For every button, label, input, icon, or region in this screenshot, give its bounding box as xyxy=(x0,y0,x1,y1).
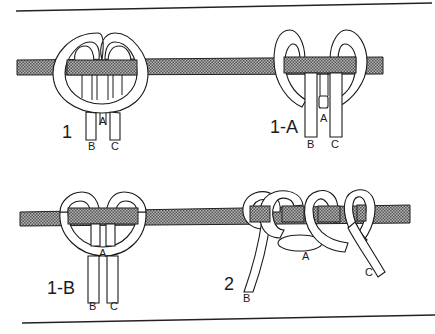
strand-c-label: C xyxy=(110,300,118,312)
panel-1-a: 1-A A B C xyxy=(270,30,367,150)
panel-1-b: 1-B A B C xyxy=(47,192,146,312)
strand-a-label: A xyxy=(99,115,107,127)
top-rule xyxy=(16,3,432,11)
strand-a-label: A xyxy=(302,250,310,262)
panel-2: 2 A B C xyxy=(224,190,385,304)
panel-1-label: 1 xyxy=(62,122,72,142)
bottom-rule xyxy=(22,315,435,323)
panel-2-label: 2 xyxy=(224,274,234,294)
strand-b-label: B xyxy=(88,140,95,152)
panel-1a-label: 1-A xyxy=(270,117,298,137)
strand-c-label: C xyxy=(365,266,373,278)
strand-b-label: B xyxy=(89,300,96,312)
strand-b-label: B xyxy=(243,292,250,304)
panel-1b-label: 1-B xyxy=(47,278,75,298)
strand-c-label: C xyxy=(331,138,339,150)
knot-diagram: 1 A B C 1-A A B C 1-B A xyxy=(0,0,435,334)
strand-a-label: A xyxy=(99,247,107,259)
strand-a-label: A xyxy=(320,112,328,124)
panel-1: 1 A B C xyxy=(53,33,148,152)
strand-b-label: B xyxy=(307,138,314,150)
strand-c-label: C xyxy=(111,140,119,152)
